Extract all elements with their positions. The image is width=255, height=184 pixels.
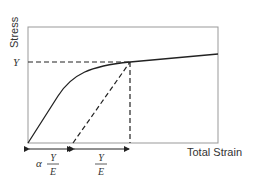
y-axis-label: Stress (8, 16, 20, 48)
yield-label: Y (13, 56, 21, 68)
plot-frame (28, 27, 218, 143)
stress-strain-curve (28, 54, 218, 143)
alpha-symbol: α (36, 157, 42, 169)
stress-strain-diagram: Stress Y α Y E Y E Total Strain (0, 0, 255, 184)
dim1-numerator: Y (50, 152, 57, 163)
dim2-denominator: E (97, 166, 104, 177)
x-axis-label: Total Strain (187, 146, 242, 158)
dim2-numerator: Y (98, 152, 105, 163)
dim1-denominator: E (49, 166, 56, 177)
